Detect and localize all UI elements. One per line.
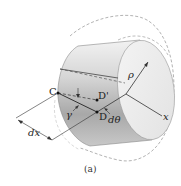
- label-d: D: [99, 111, 107, 122]
- label-d-theta: dθ: [108, 114, 120, 125]
- label-dx: dx: [28, 127, 40, 138]
- figure-caption: (a): [84, 164, 96, 174]
- point-c-dot: [57, 92, 60, 95]
- label-rho: ρ: [127, 69, 134, 80]
- label-x-axis: x: [163, 111, 169, 122]
- label-d-prime: D': [98, 90, 109, 101]
- shaft-torsion-diagram: C D' D γ dθ ρ x dx (a): [0, 0, 181, 186]
- label-c: C: [49, 86, 57, 97]
- label-gamma: γ: [66, 109, 72, 120]
